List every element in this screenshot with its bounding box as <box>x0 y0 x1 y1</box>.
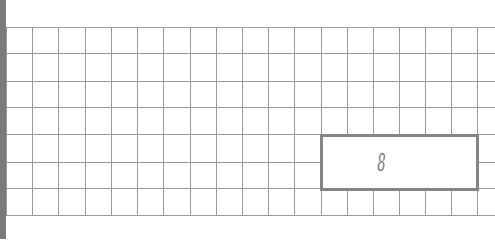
grid-hline <box>6 107 495 108</box>
grid-hline <box>6 81 495 82</box>
handwritten-answer: 8 <box>339 137 423 188</box>
grid-hline <box>6 27 495 28</box>
grid-hline <box>6 53 495 54</box>
grid-hline <box>6 215 495 216</box>
answer-box[interactable]: 8 <box>320 134 479 191</box>
